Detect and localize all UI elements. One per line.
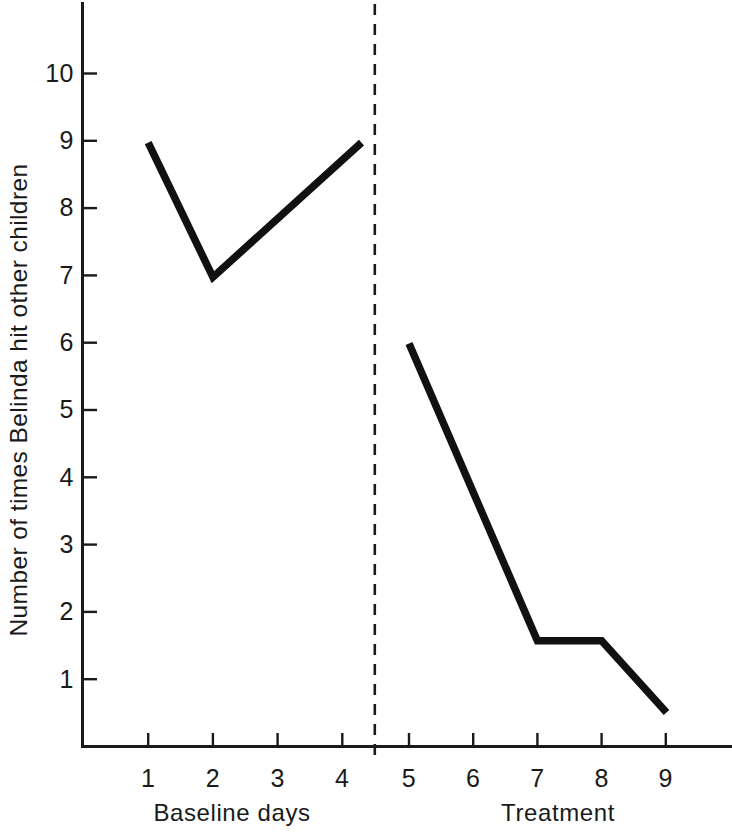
y-axis-ticks — [84, 74, 97, 680]
y-tick-label-4: 4 — [60, 463, 74, 491]
x-axis-ticks — [148, 733, 666, 745]
phase-label-treatment: Treatment — [501, 799, 615, 826]
x-axis-tick-labels: 1 2 3 4 5 6 7 8 9 — [141, 764, 673, 792]
x-tick-label-1: 1 — [141, 764, 155, 792]
x-tick-label-4: 4 — [335, 764, 349, 792]
y-axis-title: Number of times Belinda hit other childr… — [5, 164, 32, 637]
chart-figure: 10 9 8 7 6 5 4 3 2 1 1 2 3 — [0, 0, 732, 837]
treatment-data-line — [409, 344, 667, 713]
y-tick-label-3: 3 — [60, 530, 74, 558]
line-chart-canvas: 10 9 8 7 6 5 4 3 2 1 1 2 3 — [0, 0, 732, 837]
x-tick-label-8: 8 — [594, 764, 608, 792]
phase-label-baseline: Baseline days — [153, 799, 310, 826]
y-tick-label-7: 7 — [60, 261, 74, 289]
x-tick-label-3: 3 — [270, 764, 284, 792]
x-tick-label-2: 2 — [206, 764, 220, 792]
y-tick-label-1: 1 — [60, 665, 74, 693]
y-axis-tick-labels: 10 9 8 7 6 5 4 3 2 1 — [45, 59, 74, 693]
x-tick-label-7: 7 — [530, 764, 544, 792]
y-tick-label-8: 8 — [60, 193, 74, 221]
y-tick-label-9: 9 — [60, 126, 74, 154]
y-tick-label-6: 6 — [60, 328, 74, 356]
baseline-data-line — [148, 143, 361, 278]
x-tick-label-6: 6 — [466, 764, 480, 792]
y-tick-label-5: 5 — [60, 395, 74, 423]
y-tick-label-10: 10 — [45, 59, 74, 87]
x-tick-label-5: 5 — [402, 764, 416, 792]
x-tick-label-9: 9 — [659, 764, 673, 792]
y-tick-label-2: 2 — [60, 597, 74, 625]
